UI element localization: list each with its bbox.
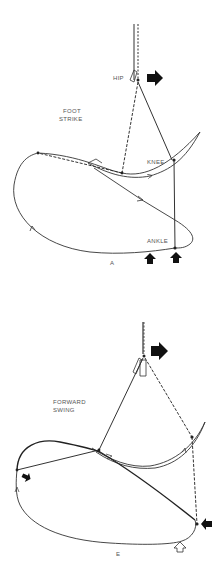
ankle-path-lower (16, 470, 196, 544)
shank-solid (174, 160, 175, 248)
panel-label: E (116, 551, 120, 557)
ankle-label: ANKLE (147, 238, 168, 244)
thigh-solid (99, 358, 143, 450)
hip-joint (143, 355, 146, 358)
ankle-joint (173, 246, 176, 249)
phase-title-line1: FOOT (63, 108, 81, 114)
phase-title-line2: SWING (53, 407, 75, 413)
knee-joint (172, 158, 175, 161)
knee-joint (190, 435, 193, 438)
ground-force-arrow-icon (144, 253, 156, 264)
shank-solid (17, 450, 99, 470)
panel-a: HIP FOOT STRIKE KNEE ANKLE A (14, 24, 200, 266)
panel-e: FORWARD SWING E (15, 322, 212, 557)
thigh-dashed (122, 82, 138, 173)
knee-label: KNEE (147, 159, 165, 165)
ankle-loop-diagonal (94, 168, 193, 248)
shank-dashed (192, 437, 197, 524)
ankle-joint (195, 522, 198, 525)
knee-path-upper (38, 132, 200, 174)
panel-label: A (110, 260, 114, 266)
thigh-solid (138, 82, 172, 160)
joint-dot (121, 172, 124, 175)
knee-force-arrow-icon (201, 518, 212, 530)
hip-forward-arrow-icon (151, 342, 168, 360)
hip-forward-arrow-icon (147, 70, 163, 86)
hip-label: HIP (113, 75, 124, 81)
joint-dot (37, 152, 40, 155)
shank-dashed (38, 153, 122, 173)
phase-title-line2: STRIKE (59, 116, 82, 122)
gait-diagram: HIP FOOT STRIKE KNEE ANKLE A (0, 0, 217, 584)
knee-path-lower (96, 422, 205, 468)
ground-force-arrow-icon (170, 252, 182, 263)
knee-path-lower (88, 132, 200, 177)
hip-joint (137, 79, 140, 82)
phase-title-line1: FORWARD (53, 399, 86, 405)
ground-force-outline-arrow-icon (174, 542, 186, 552)
knee-joint (98, 449, 101, 452)
ankle-force-arrow-icon (20, 471, 32, 484)
joint-dot (16, 469, 19, 472)
ankle-path-bold (17, 441, 195, 520)
thigh-dashed (145, 358, 192, 437)
